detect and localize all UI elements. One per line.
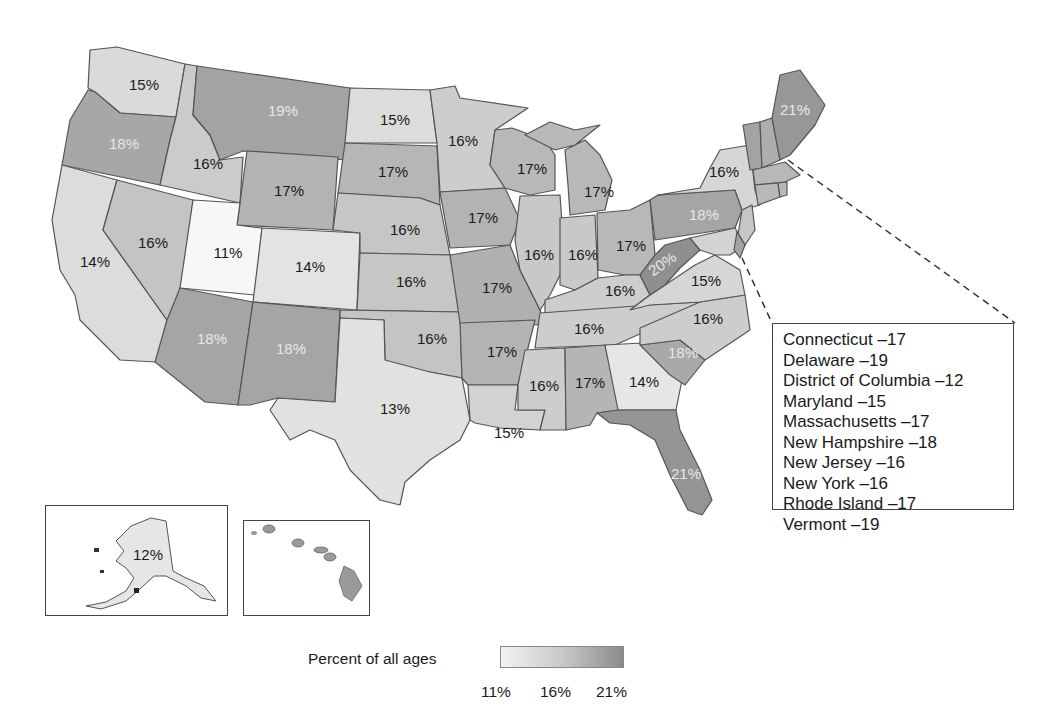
label-me: 21% bbox=[780, 101, 810, 118]
label-tn: 16% bbox=[574, 320, 604, 337]
label-il: 16% bbox=[524, 246, 554, 263]
callout-row-maryland: Maryland –15 bbox=[783, 392, 1013, 413]
label-al: 17% bbox=[575, 374, 605, 391]
label-ks: 16% bbox=[396, 273, 426, 290]
label-sc: 18% bbox=[668, 344, 698, 361]
state-connecticut bbox=[755, 183, 780, 205]
label-co: 14% bbox=[295, 258, 325, 275]
label-tx: 13% bbox=[380, 400, 410, 417]
state-florida bbox=[597, 410, 712, 515]
label-az: 18% bbox=[197, 330, 227, 347]
legend-tick-high: 21% bbox=[596, 683, 627, 701]
callout-row-connecticut: Connecticut –17 bbox=[783, 330, 1013, 351]
alaska-inset: 12% bbox=[45, 505, 228, 616]
label-or: 18% bbox=[109, 135, 139, 152]
callout-row-newjersey: New Jersey –16 bbox=[783, 453, 1013, 474]
label-nm: 18% bbox=[276, 340, 306, 357]
label-ga: 14% bbox=[629, 373, 659, 390]
label-ok: 16% bbox=[417, 330, 447, 347]
label-nc: 16% bbox=[693, 310, 723, 327]
alaska-shape: 12% bbox=[46, 506, 227, 615]
label-fl: 21% bbox=[671, 465, 701, 482]
label-ny: 16% bbox=[709, 163, 739, 180]
label-ky: 16% bbox=[605, 282, 635, 299]
label-ar: 17% bbox=[487, 343, 517, 360]
callout-row-rhodeisland: Rhode Island –17 bbox=[783, 494, 1013, 515]
state-rhodeisland bbox=[778, 182, 787, 197]
callout-row-massachusetts: Massachusetts –17 bbox=[783, 412, 1013, 433]
label-nd: 15% bbox=[380, 111, 410, 128]
label-va: 15% bbox=[691, 272, 721, 289]
legend-label: Percent of all ages bbox=[308, 650, 436, 668]
callout-row-dc: District of Columbia –12 bbox=[783, 371, 1013, 392]
label-nv: 16% bbox=[138, 234, 168, 251]
label-ms: 16% bbox=[529, 377, 559, 394]
legend-gradient-bar bbox=[500, 646, 624, 668]
label-wa: 15% bbox=[129, 76, 159, 93]
callout-row-newhampshire: New Hampshire –18 bbox=[783, 433, 1013, 454]
label-mo: 17% bbox=[482, 279, 512, 296]
label-la: 15% bbox=[494, 424, 524, 441]
label-mi: 17% bbox=[584, 183, 614, 200]
label-oh: 17% bbox=[616, 237, 646, 254]
callout-row-vermont: Vermont –19 bbox=[783, 515, 1013, 536]
label-mt: 19% bbox=[268, 102, 298, 119]
small-states-callout: Connecticut –17 Delaware –19 District of… bbox=[772, 323, 1014, 510]
label-pa: 18% bbox=[689, 206, 719, 223]
hawaii-inset bbox=[243, 520, 370, 616]
legend-tick-mid: 16% bbox=[540, 683, 571, 701]
label-wy: 17% bbox=[274, 182, 304, 199]
label-mn: 16% bbox=[448, 132, 478, 149]
hawaii-shape bbox=[244, 521, 369, 615]
legend-tick-low: 11% bbox=[481, 683, 511, 701]
label-ne: 16% bbox=[390, 221, 420, 238]
label-ut: 11% bbox=[214, 244, 243, 261]
callout-leader-top bbox=[788, 160, 1015, 323]
label-id: 16% bbox=[193, 155, 223, 172]
callout-row-delaware: Delaware –19 bbox=[783, 351, 1013, 372]
label-ak: 12% bbox=[133, 546, 163, 563]
label-ca: 14% bbox=[80, 253, 110, 270]
label-wi: 17% bbox=[517, 160, 547, 177]
label-sd: 17% bbox=[378, 163, 408, 180]
callout-row-newyork: New York –16 bbox=[783, 474, 1013, 495]
label-in: 16% bbox=[568, 246, 598, 263]
label-ia: 17% bbox=[468, 209, 498, 226]
